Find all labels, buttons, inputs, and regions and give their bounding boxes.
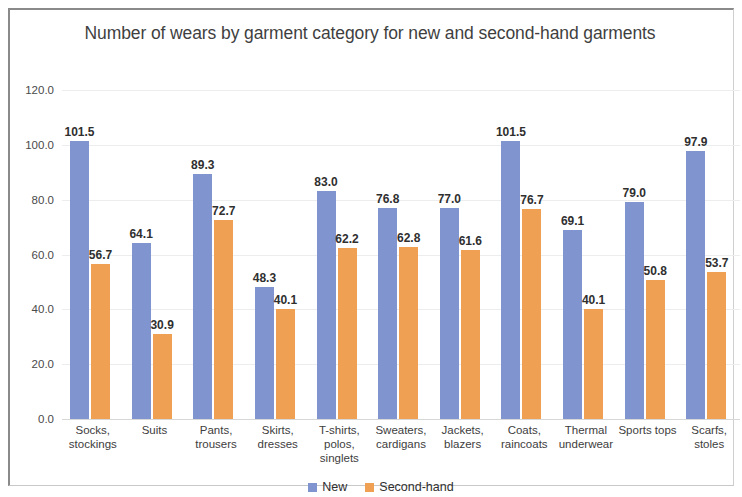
bar-value-label: 77.0 [438,192,461,206]
y-axis: 120.0100.080.060.040.020.00.0 [10,90,56,419]
bar: 30.9 [153,334,172,419]
bar: 48.3 [255,287,274,419]
bar-value-label: 97.9 [684,135,707,149]
bar-group: 76.862.8 [370,90,432,419]
bar-value-label: 40.1 [582,293,605,307]
x-axis-category-label: Socks,stockings [62,423,124,451]
bar: 101.5 [501,141,520,419]
bar-value-label: 83.0 [314,175,337,189]
bar-value-label: 79.0 [623,186,646,200]
bar: 97.9 [686,151,705,419]
bar: 72.7 [214,220,233,419]
chart-title: Number of wears by garment category for … [70,20,670,46]
bar: 79.0 [625,202,644,419]
legend-label: New [322,480,347,494]
y-axis-tick-label: 120.0 [25,84,54,96]
bar: 62.8 [399,247,418,419]
gridline [62,419,740,420]
x-axis-category-label: Jackets,blazers [432,423,494,451]
bar-value-label: 53.7 [705,256,728,270]
bar-group: 83.062.2 [309,90,371,419]
bar-value-label: 30.9 [150,318,173,332]
y-axis-tick-label: 80.0 [32,194,54,206]
bar-value-label: 64.1 [129,227,152,241]
bar: 64.1 [132,243,151,419]
bar-group: 48.340.1 [247,90,309,419]
x-axis-category-label: Thermalunderwear [555,423,617,451]
bar-group: 89.372.7 [185,90,247,419]
bar-value-label: 61.6 [459,234,482,248]
legend-swatch-icon [308,483,317,492]
y-axis-tick-label: 20.0 [32,358,54,370]
bar-group: 101.576.7 [493,90,555,419]
x-axis-category-label: T-shirts,polos,singlets [309,423,371,465]
bar-group: 97.953.7 [678,90,740,419]
x-axis-category-label: Coats,raincoats [493,423,555,451]
legend-label: Second-hand [379,480,453,494]
legend-item[interactable]: New [308,480,347,494]
x-axis-category-label: Pants,trousers [185,423,247,451]
bar: 62.2 [338,248,357,419]
bar-value-label: 69.1 [561,214,584,228]
bar: 56.7 [91,264,110,419]
bar-value-label: 48.3 [253,271,276,285]
bar-group: 79.050.8 [617,90,679,419]
x-axis-category-label: Suits [124,423,186,437]
legend-item[interactable]: Second-hand [365,480,453,494]
bar-group: 64.130.9 [124,90,186,419]
y-axis-tick-label: 0.0 [38,413,54,425]
legend-swatch-icon [365,483,374,492]
x-axis-category-label: Scarfs,stoles [678,423,740,451]
bar: 61.6 [461,250,480,419]
bar: 76.8 [378,208,397,419]
bar-value-label: 89.3 [191,158,214,172]
bar-group: 69.140.1 [555,90,617,419]
bar-value-label: 76.8 [376,192,399,206]
chart-frame: Number of wears by garment category for … [8,8,734,486]
bar: 83.0 [317,191,336,419]
bar-value-label: 101.5 [496,125,526,139]
bar: 76.7 [522,209,541,419]
y-axis-tick-label: 100.0 [25,139,54,151]
y-axis-tick-label: 40.0 [32,303,54,315]
bar: 53.7 [707,272,726,419]
x-axis: Socks,stockingsSuitsPants,trousersSkirts… [62,423,740,475]
bar: 50.8 [646,280,665,419]
bar-value-label: 62.8 [397,231,420,245]
bar-value-label: 40.1 [274,293,297,307]
chart-legend: NewSecond-hand [10,480,742,494]
bar-value-label: 76.7 [520,193,543,207]
bar: 40.1 [276,309,295,419]
x-axis-category-label: Sweaters,cardigans [370,423,432,451]
bar-value-label: 72.7 [212,204,235,218]
bar-value-label: 101.5 [64,125,94,139]
bar: 77.0 [440,208,459,419]
x-axis-category-label: Skirts,dresses [247,423,309,451]
bar-value-label: 62.2 [335,232,358,246]
bar: 40.1 [584,309,603,419]
bar-value-label: 50.8 [644,264,667,278]
x-axis-category-label: Sports tops [617,423,679,437]
bar: 89.3 [193,174,212,419]
bar-value-label: 56.7 [89,248,112,262]
bar-group: 101.556.7 [62,90,124,419]
bar-group: 77.061.6 [432,90,494,419]
bar: 69.1 [563,230,582,419]
y-axis-tick-label: 60.0 [32,249,54,261]
bars-layer: 101.556.764.130.989.372.748.340.183.062.… [62,90,740,419]
bar: 101.5 [70,141,89,419]
